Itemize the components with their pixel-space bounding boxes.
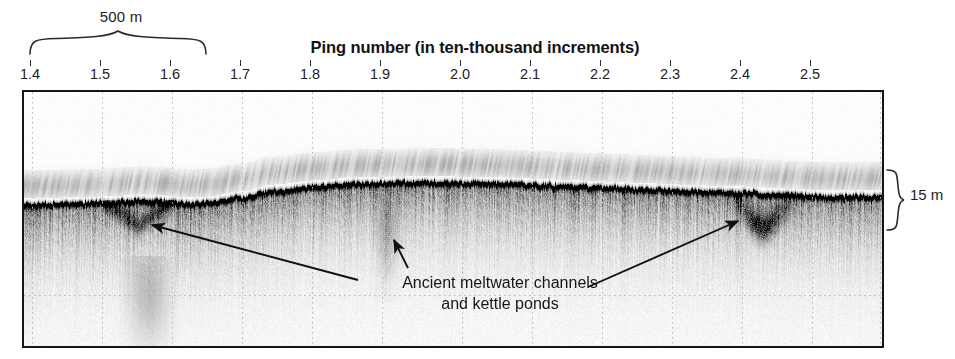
scale-bar-label: 500 m: [26, 8, 216, 25]
x-tick-label: 2.4: [717, 66, 763, 82]
scale-bar-group: 500 m: [26, 8, 226, 58]
x-tick-label: 2.3: [647, 66, 693, 82]
x-tick-label: 1.7: [217, 66, 263, 82]
x-axis-title: Ping number (in ten-thousand increments): [275, 38, 675, 57]
x-tick-label: 2.2: [577, 66, 623, 82]
x-tick-label: 2.5: [787, 66, 833, 82]
x-tick-label: 1.9: [357, 66, 403, 82]
x-tick-label: 1.4: [7, 66, 53, 82]
depth-scale-label: 15 m: [910, 186, 943, 203]
annotation-line-1: Ancient meltwater channels: [360, 272, 640, 293]
x-tick-label: 1.8: [287, 66, 333, 82]
x-tick-label: 2.1: [507, 66, 553, 82]
scale-bar-brace-icon: [26, 30, 221, 56]
depth-brace-icon: [884, 168, 906, 232]
annotation-label: Ancient meltwater channels and kettle po…: [360, 272, 640, 314]
depth-scale-group: 15 m: [884, 168, 954, 234]
sonar-profile-figure: 500 m Ping number (in ten-thousand incre…: [0, 0, 955, 359]
annotation-line-2: and kettle ponds: [360, 293, 640, 314]
x-tick-label: 1.5: [77, 66, 123, 82]
x-axis-tick-labels: 1.41.51.61.71.81.92.02.12.22.32.42.5: [0, 66, 955, 86]
x-tick-label: 2.0: [437, 66, 483, 82]
x-tick-label: 1.6: [147, 66, 193, 82]
